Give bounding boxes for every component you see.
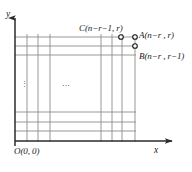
origin-label: O(0, 0) [14,147,39,156]
grid-horizontal-lines [15,37,136,131]
grid-vertical-lines [27,34,135,142]
point-marker-b [133,44,138,49]
point-marker-a [133,35,138,40]
x-axis-label: x [154,146,158,156]
point-label-a: A(n−r , r) [139,31,174,40]
y-axis-label: y [6,10,10,20]
vertical-ellipsis: ⋮ [21,81,28,88]
point-marker-c [119,35,124,40]
point-label-c: C(n−r−1, r) [79,24,123,33]
lattice-grid-figure: C(n−r−1, r) A(n−r , r) B(n−r , r−1) O(0,… [0,0,192,172]
horizontal-ellipsis: ⋯ [62,82,71,90]
point-label-b: B(n−r , r−1) [139,52,184,61]
